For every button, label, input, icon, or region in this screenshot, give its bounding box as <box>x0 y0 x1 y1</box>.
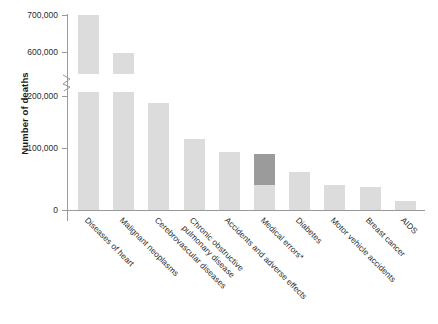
bar-1-upper <box>113 53 134 74</box>
y-tick-label-200000: 200,000 <box>27 91 58 101</box>
y-tick-label-100000: 100,000 <box>27 143 58 153</box>
plot-area: 700,000 600,000 200,000 100,000 <box>67 10 427 211</box>
bar-2 <box>148 103 169 210</box>
y-axis-title: Number of deaths <box>19 44 30 184</box>
x-axis-label-7: Motor vehicle accidents <box>329 215 399 285</box>
y-tick-label-0: 0 <box>53 205 58 215</box>
y-axis-break-icon <box>61 74 75 92</box>
bar-8 <box>360 187 381 210</box>
bar-9 <box>395 201 416 210</box>
x-axis-label-9: AIDS <box>399 215 420 236</box>
bar-1-lower <box>113 92 134 210</box>
bar-7 <box>324 185 345 210</box>
y-tick-label-700000: 700,000 <box>27 10 58 20</box>
bar-4 <box>219 152 240 210</box>
x-axis-label-1: Malignant neoplasms <box>117 215 181 279</box>
bar-highlight-medical-errors <box>254 154 275 185</box>
bar-6 <box>289 172 310 210</box>
bar-chart: Number of deaths 700,000 600,000 2 <box>0 0 438 324</box>
bar-3 <box>184 139 205 210</box>
x-axis-label-6: Diabetes <box>293 215 324 246</box>
bar-0-upper <box>78 15 99 74</box>
bar-0-lower <box>78 92 99 210</box>
y-tick-label-600000: 600,000 <box>27 47 58 57</box>
y-axis-line <box>67 14 68 221</box>
x-axis-line <box>67 210 425 211</box>
